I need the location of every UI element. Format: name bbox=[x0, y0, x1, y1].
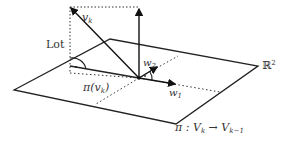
dotted-projection bbox=[70, 73, 139, 78]
right-angle-dot-lot bbox=[75, 66, 77, 68]
pi-vk-label: π(vk) bbox=[83, 82, 109, 95]
origin-point bbox=[137, 76, 141, 80]
projection-diagram: vk Lot π(vk) w2 w1 ℝ2 π : Vk → Vk−1 bbox=[0, 0, 282, 142]
vk-label: vk bbox=[82, 12, 92, 25]
angle-arc-origin bbox=[150, 72, 152, 80]
lot-label: Lot bbox=[46, 39, 64, 50]
w2-label: w2 bbox=[143, 58, 156, 70]
diagram-canvas bbox=[0, 0, 282, 142]
plane-r2 bbox=[14, 39, 258, 124]
plane-r2-label: ℝ2 bbox=[262, 60, 276, 71]
w1-label: w1 bbox=[169, 88, 182, 100]
map-label: π : Vk → Vk−1 bbox=[175, 122, 244, 135]
angle-dot-origin bbox=[144, 75, 146, 77]
w1-vector bbox=[139, 78, 175, 84]
